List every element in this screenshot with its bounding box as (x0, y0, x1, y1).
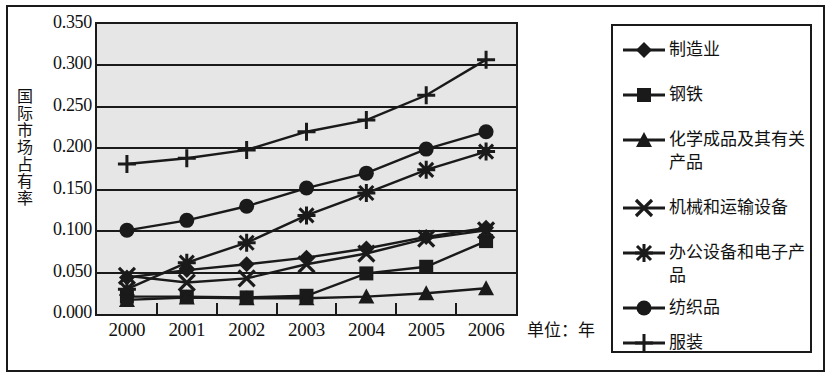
legend-item-0[interactable]: 制造业 (621, 38, 809, 61)
data-point-asterisk (178, 254, 196, 272)
legend-item-2[interactable]: 化学成品及其有关产品 (621, 128, 809, 174)
plot-area (95, 22, 518, 316)
data-point-square (637, 88, 651, 102)
data-point-asterisk (357, 184, 375, 202)
legend-marker-triangle (621, 129, 667, 151)
series-2 (119, 280, 494, 307)
data-point-circle (637, 301, 652, 316)
data-point-plus (357, 111, 375, 129)
series-0 (119, 220, 494, 286)
data-point-asterisk (477, 143, 495, 161)
y-axis-tick-label: 0.050 (30, 262, 92, 280)
data-point-plus (178, 149, 196, 167)
data-point-diamond (478, 220, 494, 236)
data-point-circle (359, 166, 374, 181)
data-point-circle (239, 199, 254, 214)
data-point-circle (179, 213, 194, 228)
data-point-circle (119, 223, 134, 238)
data-point-square (359, 266, 373, 280)
data-point-plus (477, 51, 495, 69)
x-axis-tick-label: 2006 (451, 320, 521, 340)
data-point-asterisk (635, 244, 653, 262)
y-axis-tick-label: 0.100 (30, 220, 92, 238)
y-axis-tick-label: 0.300 (30, 54, 92, 72)
data-point-asterisk (417, 161, 435, 179)
legend-item-4[interactable]: 办公设备和电子产品 (621, 241, 809, 287)
data-point-asterisk (118, 280, 136, 298)
legend-marker-circle (621, 297, 667, 319)
data-point-circle (479, 124, 494, 139)
legend-item-1[interactable]: 钢铁 (621, 83, 809, 106)
y-axis-tick-label: 0.150 (30, 179, 92, 197)
legend: 制造业钢铁化学成品及其有关产品机械和运输设备办公设备和电子产品纺织品服装 (611, 24, 812, 353)
data-point-diamond (239, 256, 255, 272)
data-point-asterisk (238, 234, 256, 252)
chart-figure: 国际市场占有率 0.0000.0500.1000.1500.2000.2500.… (0, 0, 831, 379)
legend-marker-asterisk (621, 242, 667, 264)
legend-item-6[interactable]: 服装 (621, 331, 809, 354)
x-axis-unit-label: 单位：年 (527, 320, 595, 340)
line-chart-panel: 国际市场占有率 0.0000.0500.1000.1500.2000.2500.… (0, 0, 592, 379)
legend-item-label: 化学成品及其有关产品 (669, 128, 809, 174)
y-axis-tick-labels: 0.0000.0500.1000.1500.2000.2500.3000.350 (30, 14, 92, 324)
legend-item-label: 办公设备和电子产品 (669, 241, 809, 287)
series-4 (118, 143, 495, 299)
legend-marker-x (621, 197, 667, 219)
legend-item-label: 机械和运输设备 (669, 196, 788, 219)
data-point-square (419, 260, 433, 274)
legend-marker-square (621, 84, 667, 106)
y-axis-tick-label: 0.350 (30, 13, 92, 31)
legend-marker-diamond (621, 39, 667, 61)
legend-item-label: 纺织品 (669, 296, 720, 319)
legend-item-5[interactable]: 纺织品 (621, 296, 809, 319)
data-point-plus (298, 123, 316, 141)
legend-item-label: 服装 (669, 331, 703, 354)
data-point-circle (419, 142, 434, 157)
data-series-layer (97, 24, 516, 314)
y-axis-tick-label: 0.250 (30, 96, 92, 114)
data-point-plus (118, 155, 136, 173)
data-point-diamond (636, 42, 652, 58)
legend-item-label: 钢铁 (669, 83, 703, 106)
data-point-plus (417, 86, 435, 104)
data-point-circle (299, 181, 314, 196)
data-point-asterisk (298, 206, 316, 224)
y-axis-tick-label: 0.200 (30, 137, 92, 155)
y-axis-tick-label: 0.000 (30, 303, 92, 321)
data-point-plus (238, 141, 256, 159)
legend-marker-plus (621, 332, 667, 354)
data-point-plus (635, 334, 653, 352)
legend-item-label: 制造业 (669, 38, 720, 61)
legend-item-3[interactable]: 机械和运输设备 (621, 196, 809, 219)
series-6 (118, 51, 495, 173)
